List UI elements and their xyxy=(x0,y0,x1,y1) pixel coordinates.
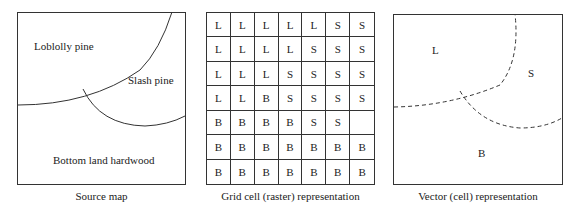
vector-boundaries xyxy=(0,0,569,211)
vector-label-s: S xyxy=(528,67,534,79)
vector-label-b: B xyxy=(478,147,485,159)
vector-label-l: L xyxy=(432,44,439,56)
vector-caption: Vector (cell) representation xyxy=(393,190,563,202)
